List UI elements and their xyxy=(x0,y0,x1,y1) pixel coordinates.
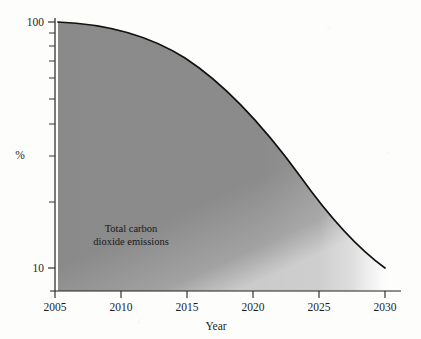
x-tick-label-2010: 2010 xyxy=(110,301,133,313)
series-annotation-line1: Total carbon xyxy=(105,223,158,234)
y-tick-label-100: 100 xyxy=(27,16,45,28)
y-axis-title: % xyxy=(15,149,25,161)
x-tick-label-2020: 2020 xyxy=(242,301,265,313)
series-annotation-line2: dioxide emissions xyxy=(93,236,169,247)
x-tick-label-2015: 2015 xyxy=(176,301,199,313)
figure-canvas: 100 10 % 2005 2010 2015 2020 2025 2030 Y… xyxy=(0,0,421,339)
emissions-decline-chart: 100 10 % 2005 2010 2015 2020 2025 2030 Y… xyxy=(0,0,421,339)
y-tick-label-10: 10 xyxy=(33,262,45,274)
x-tick-label-2025: 2025 xyxy=(308,301,331,313)
emissions-area-fill xyxy=(58,22,385,291)
x-tick-label-2030: 2030 xyxy=(374,301,397,313)
x-axis-title: Year xyxy=(205,320,226,332)
x-tick-label-2005: 2005 xyxy=(44,301,67,313)
